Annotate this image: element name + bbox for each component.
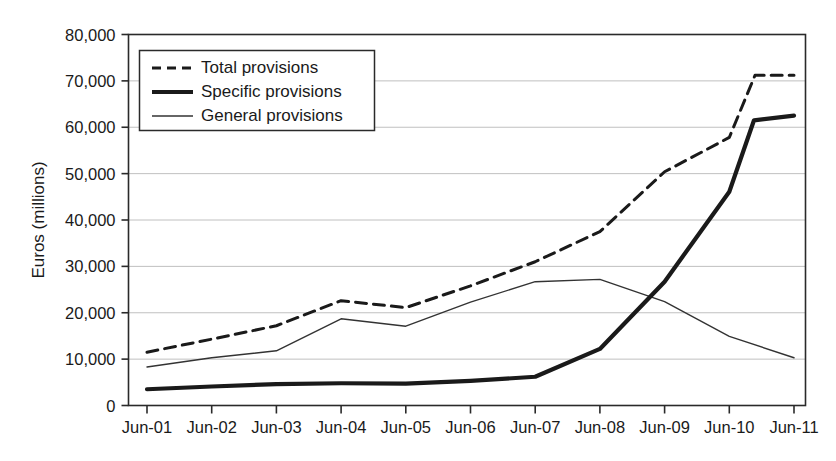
y-axis-tick-label: 10,000 [65,350,115,368]
y-axis-tick-label: 60,000 [65,118,115,136]
y-axis-tick-label: 70,000 [65,72,115,90]
y-axis-title: Euros (millions) [29,161,48,278]
x-axis-tick-label: Jun-07 [510,418,560,436]
x-axis-tick-label: Jun-04 [316,418,366,436]
chart-background [0,0,836,461]
y-axis-tick-labels: 010,00020,00030,00040,00050,00060,00070,… [65,26,115,415]
provisions-line-chart: 010,00020,00030,00040,00050,00060,00070,… [0,0,836,461]
x-axis-tick-label: Jun-09 [639,418,689,436]
x-axis-tick-label: Jun-03 [251,418,301,436]
x-axis-tick-label: Jun-08 [575,418,625,436]
y-axis-tick-label: 20,000 [65,304,115,322]
legend-label: Specific provisions [201,82,342,101]
x-axis-tick-label: Jun-10 [704,418,754,436]
x-axis-tick-labels: Jun-01Jun-02Jun-03Jun-04Jun-05Jun-06Jun-… [122,418,819,436]
x-axis-tick-label: Jun-05 [381,418,431,436]
y-axis-tick-label: 80,000 [65,26,115,44]
chart-figure: 010,00020,00030,00040,00050,00060,00070,… [0,0,836,461]
x-axis-tick-label: Jun-01 [122,418,172,436]
chart-legend: Total provisionsSpecific provisionsGener… [140,51,375,131]
legend-label: General provisions [201,106,343,125]
legend-label: Total provisions [201,58,318,77]
x-axis-tick-label: Jun-02 [186,418,236,436]
y-axis-tick-label: 30,000 [65,257,115,275]
y-axis-tick-label: 0 [106,397,115,415]
y-axis-tick-label: 50,000 [65,165,115,183]
x-axis-tick-label: Jun-11 [769,418,818,436]
x-axis-tick-label: Jun-06 [445,418,495,436]
y-axis-tick-label: 40,000 [65,211,115,229]
